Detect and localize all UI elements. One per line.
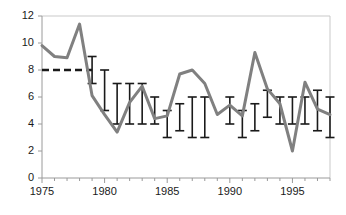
- error-bar: [100, 70, 109, 111]
- error-bar: [288, 97, 297, 124]
- error-bar: [225, 97, 234, 124]
- x-axis-tick-label: 1990: [210, 186, 250, 197]
- error-bar: [326, 97, 335, 138]
- y-axis-tick-label: 2: [12, 145, 34, 156]
- chart-container: 02468101219751980198519901995: [0, 0, 346, 215]
- y-axis-tick-label: 6: [12, 91, 34, 102]
- x-axis-tick-label: 1985: [147, 186, 187, 197]
- y-axis-tick-label: 10: [12, 37, 34, 48]
- error-bar: [188, 97, 197, 138]
- data-series-line: [42, 24, 330, 151]
- y-axis-tick-label: 0: [12, 172, 34, 183]
- y-axis-tick-label: 12: [12, 10, 34, 21]
- error-bar: [113, 84, 122, 125]
- error-bar: [200, 97, 209, 138]
- y-axis-tick-label: 4: [12, 118, 34, 129]
- x-axis-tick-label: 1980: [85, 186, 125, 197]
- x-axis-tick-label: 1995: [272, 186, 312, 197]
- error-bar: [250, 104, 259, 131]
- y-axis-tick-label: 8: [12, 64, 34, 75]
- line-chart-plot: [0, 0, 346, 215]
- x-axis-tick-label: 1975: [22, 186, 62, 197]
- error-bar: [175, 104, 184, 131]
